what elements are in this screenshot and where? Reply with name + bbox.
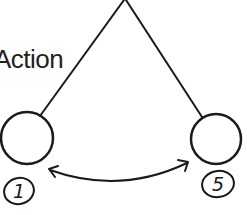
right-string [126,0,202,117]
pendulum-diagram: 1 5 [0,0,247,215]
badge-5-label: 5 [212,173,224,195]
badge-1-label: 1 [13,180,25,202]
left-string [40,0,124,116]
right-circle [191,114,241,164]
swing-arrow [50,163,187,181]
left-circle [1,112,53,164]
